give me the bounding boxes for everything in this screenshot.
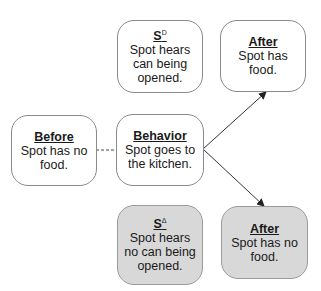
sdelta-text: Spot hears no can being opened. <box>123 231 197 273</box>
sdelta-title-letter: S <box>153 217 161 231</box>
sdelta-title: SΔ <box>153 217 166 231</box>
behavior-text: Spot goes to the kitchen. <box>120 143 200 171</box>
sd-title-letter: S <box>153 29 161 43</box>
before-title: Before <box>34 130 74 144</box>
after-nofood-box: After Spot has no food. <box>221 206 308 279</box>
after-nofood-title: After <box>250 222 279 236</box>
sd-superscript: D <box>162 28 167 35</box>
sd-title: SD <box>153 29 166 43</box>
arrow-to-after-food <box>203 92 266 149</box>
before-text: Spot has no food. <box>18 144 90 172</box>
sdelta-superscript: Δ <box>162 217 167 224</box>
after-food-title: After <box>248 35 277 49</box>
arrow-to-after-nofood <box>203 149 264 206</box>
sd-text: Spot hears can being opened. <box>125 43 195 85</box>
behavior-box: Behavior Spot goes to the kitchen. <box>116 114 204 186</box>
after-food-box: After Spot has food. <box>220 20 306 92</box>
sd-box: SD Spot hears can being opened. <box>117 20 203 93</box>
after-nofood-text: Spot has no food. <box>227 236 303 264</box>
before-box: Before Spot has no food. <box>11 115 97 186</box>
after-food-text: Spot has food. <box>233 49 293 77</box>
sdelta-box: SΔ Spot hears no can being opened. <box>117 205 203 285</box>
behavior-title: Behavior <box>133 129 187 143</box>
